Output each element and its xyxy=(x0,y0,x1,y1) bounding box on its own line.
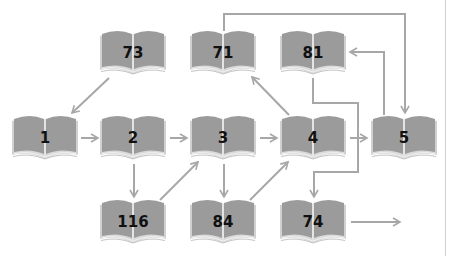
book-node-1[interactable]: 1 xyxy=(12,116,78,159)
page-border-line xyxy=(445,0,446,256)
book-label: 5 xyxy=(399,129,409,147)
edge-73-to-1 xyxy=(72,78,109,113)
book-label: 1 xyxy=(40,129,50,147)
book-node-74[interactable]: 74 xyxy=(280,200,346,243)
book-node-2[interactable]: 2 xyxy=(100,116,166,159)
edge-4-to-71 xyxy=(252,77,289,115)
book-label: 3 xyxy=(218,129,228,147)
book-label: 116 xyxy=(117,213,148,231)
book-flow-diagram: 73 71 81 1 2 3 4 5 116 84 74 xyxy=(0,0,453,256)
edge-5-to-81 xyxy=(350,52,384,115)
book-node-73[interactable]: 73 xyxy=(100,31,166,74)
edge-116-to-3 xyxy=(160,162,198,200)
book-node-81[interactable]: 81 xyxy=(280,31,346,74)
book-label: 4 xyxy=(308,129,318,147)
book-label: 2 xyxy=(128,129,138,147)
book-node-71[interactable]: 71 xyxy=(190,31,256,74)
book-node-84[interactable]: 84 xyxy=(190,200,256,243)
book-node-116[interactable]: 116 xyxy=(100,200,166,243)
book-node-5[interactable]: 5 xyxy=(371,116,437,159)
edge-84-to-4 xyxy=(250,162,288,200)
book-label: 74 xyxy=(303,213,324,231)
book-label: 73 xyxy=(123,44,144,62)
book-label: 81 xyxy=(303,44,324,62)
book-label: 84 xyxy=(213,213,234,231)
book-node-4[interactable]: 4 xyxy=(280,116,346,159)
book-node-3[interactable]: 3 xyxy=(190,116,256,159)
book-label: 71 xyxy=(213,44,234,62)
